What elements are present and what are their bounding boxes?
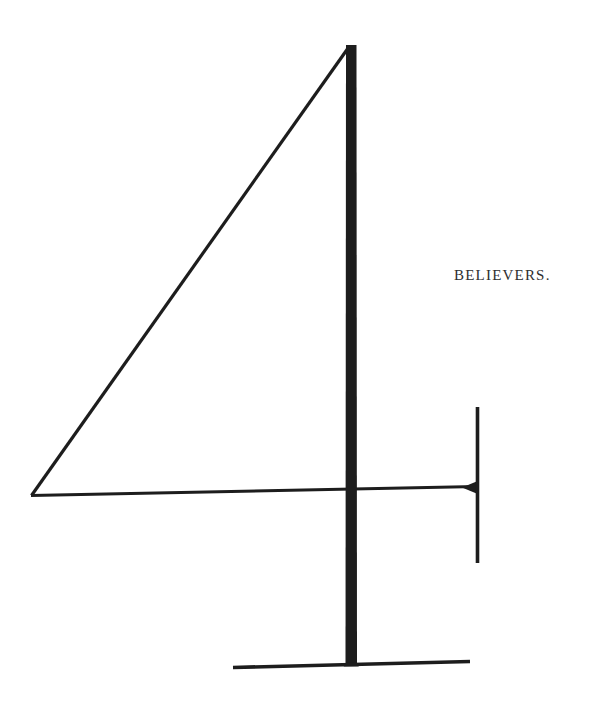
numeral-4-crossbar-flare bbox=[462, 482, 477, 494]
numeral-4-diagonal-stroke bbox=[32, 48, 349, 496]
numeral-4-crossbar-stroke bbox=[31, 487, 477, 496]
running-head: BELIEVERS. bbox=[454, 267, 551, 284]
numeral-4-figure bbox=[0, 0, 593, 716]
numeral-4-main-stem bbox=[346, 45, 358, 665]
book-page: BELIEVERS. bbox=[0, 0, 593, 716]
